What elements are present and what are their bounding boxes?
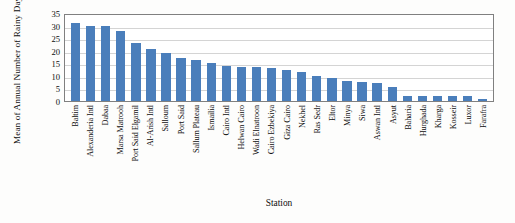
bar-cell — [415, 15, 430, 101]
x-tick-cell: Port Said Elgamil — [128, 103, 143, 193]
x-tick-cell: Dabaa — [97, 103, 112, 193]
x-tick-label: Salloum — [161, 105, 170, 132]
bar-cell — [370, 15, 385, 101]
bar — [297, 72, 306, 101]
bar — [176, 58, 185, 101]
bar-cell — [68, 15, 83, 101]
x-tick-cell: Wadi Elnatroon — [249, 103, 264, 193]
x-tick-label: Port Said Elgamil — [131, 105, 140, 162]
y-axis-title: Mean of Annual Number of Rainy Days (day… — [11, 12, 23, 144]
bar — [342, 81, 351, 101]
x-axis-title: Station — [64, 198, 494, 208]
x-tick-cell: Hurghada — [415, 103, 430, 193]
y-tick-label: 35 — [51, 9, 60, 19]
x-tick-cell: Nekhel — [294, 103, 309, 193]
bar — [372, 83, 381, 101]
x-tick-label: Nekhel — [297, 105, 306, 128]
x-tick-label: Kosseir — [449, 105, 458, 129]
x-tick-label: Aswan Intl — [373, 105, 382, 140]
x-tick-cell: Minya — [340, 103, 355, 193]
x-tick-label: Cairo Intl — [221, 105, 230, 136]
bar — [191, 60, 200, 101]
x-tick-label: Sallum Plateau — [191, 105, 200, 153]
y-tick-label: 10 — [51, 72, 60, 82]
x-tick-cell: Cairo Ezbekiya — [264, 103, 279, 193]
plot-area — [64, 14, 494, 102]
x-tick-label: Alexanderia Intl — [85, 105, 94, 157]
y-tick-label: 25 — [51, 34, 60, 44]
bar-cell — [339, 15, 354, 101]
chart-figure: Mean of Annual Number of Rainy Days (day… — [0, 0, 515, 223]
bar — [116, 31, 125, 101]
bar — [448, 96, 457, 101]
x-tick-cell: Sallum Plateau — [188, 103, 203, 193]
bar — [282, 70, 291, 101]
bar-cell — [324, 15, 339, 101]
x-tick-label: Eltor — [327, 105, 336, 121]
y-tick-label: 30 — [51, 22, 60, 32]
bar-cell — [400, 15, 415, 101]
bar — [478, 99, 487, 102]
x-tick-cell: Asyut — [385, 103, 400, 193]
x-tick-label: Al-Arish Intl — [146, 105, 155, 146]
x-tick-label: Baltim — [70, 105, 79, 127]
bar-cell — [294, 15, 309, 101]
y-tick-label: 5 — [56, 84, 60, 94]
bar-cell — [219, 15, 234, 101]
x-tick-cell: Alexanderia Intl — [82, 103, 97, 193]
bar — [161, 53, 170, 101]
bar — [267, 68, 276, 101]
bar — [237, 67, 246, 101]
x-tick-label: Port Said — [176, 105, 185, 134]
x-tick-cell: Cairo Intl — [218, 103, 233, 193]
bar — [403, 96, 412, 101]
x-tick-cell: Kosseir — [446, 103, 461, 193]
x-tick-cell: Al-Arish Intl — [143, 103, 158, 193]
bar-cell — [83, 15, 98, 101]
bar-cell — [174, 15, 189, 101]
bar — [207, 63, 216, 101]
bar — [146, 49, 155, 101]
x-tick-cell: Baharia — [400, 103, 415, 193]
bar — [357, 82, 366, 101]
bar-cell — [249, 15, 264, 101]
y-axis-title-wrap: Mean of Annual Number of Rainy Days (day… — [2, 8, 32, 148]
bar-series — [65, 15, 493, 101]
y-tick-label: 15 — [51, 59, 60, 69]
bar-cell — [128, 15, 143, 101]
bar-cell — [143, 15, 158, 101]
bar — [388, 87, 397, 101]
x-tick-label: Siwa — [358, 105, 367, 121]
bar — [252, 67, 261, 101]
bar — [327, 78, 336, 101]
bar-cell — [189, 15, 204, 101]
bar-cell — [475, 15, 490, 101]
y-axis-tick-labels: 05101520253035 — [36, 14, 62, 102]
x-tick-cell: Siwa — [355, 103, 370, 193]
bar — [101, 26, 110, 101]
bar-cell — [460, 15, 475, 101]
bar-cell — [309, 15, 324, 101]
x-tick-cell: Salloum — [158, 103, 173, 193]
x-tick-label: Helwan Cairo — [237, 105, 246, 150]
x-tick-label: Ismailia — [206, 105, 215, 131]
bar-cell — [234, 15, 249, 101]
x-tick-cell: Luxor — [461, 103, 476, 193]
x-tick-label: Luxor — [464, 105, 473, 125]
x-tick-cell: Farafra — [476, 103, 491, 193]
y-tick-label: 0 — [56, 97, 60, 107]
x-tick-cell: Baltim — [67, 103, 82, 193]
bar-cell — [264, 15, 279, 101]
bar — [131, 43, 140, 101]
bar — [71, 23, 80, 101]
bar-cell — [98, 15, 113, 101]
bar-cell — [113, 15, 128, 101]
bar-cell — [430, 15, 445, 101]
x-tick-cell: Eltor — [324, 103, 339, 193]
x-tick-label: Giza Cairo — [282, 105, 291, 140]
x-tick-cell: Ismailia — [203, 103, 218, 193]
x-tick-label: Asyut — [388, 105, 397, 124]
bar — [433, 96, 442, 101]
bar — [418, 96, 427, 101]
x-tick-cell: Helwan Cairo — [234, 103, 249, 193]
